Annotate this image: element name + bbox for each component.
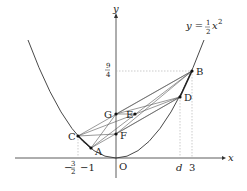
- segments: [78, 71, 192, 148]
- tick-d: d: [176, 162, 182, 173]
- x-axis-label: x: [228, 152, 234, 163]
- y-axis-label: y: [112, 3, 119, 14]
- point-C: [76, 134, 79, 137]
- label-E: E: [126, 109, 133, 120]
- label-A: A: [94, 146, 103, 157]
- point-E: [133, 112, 136, 115]
- tick-neg-3-2-den: 2: [71, 168, 75, 176]
- parabola-diagram: A B C D E F G x y O − 3 2 −1 d 3 9 4 y =…: [0, 0, 247, 191]
- curve-label-den: 2: [206, 28, 210, 36]
- tick-neg-1: −1: [80, 162, 95, 173]
- point-A: [89, 146, 92, 149]
- label-F: F: [120, 130, 127, 141]
- label-D: D: [184, 92, 192, 103]
- label-C: C: [68, 131, 76, 142]
- point-G: [114, 112, 117, 115]
- curve-label-lhs: y =: [185, 20, 203, 31]
- tick-9-4-num: 9: [106, 62, 110, 70]
- tick-3: 3: [189, 162, 195, 173]
- x-axis-arrow-icon: [222, 156, 226, 160]
- point-B: [190, 69, 193, 72]
- curve-label-num: 1: [206, 19, 210, 27]
- label-B: B: [196, 66, 203, 77]
- segment-CA: [78, 136, 91, 148]
- label-G: G: [104, 109, 112, 120]
- point-F: [114, 132, 117, 135]
- diagram-canvas: A B C D E F G x y O − 3 2 −1 d 3 9 4 y =…: [0, 0, 247, 191]
- origin-label: O: [119, 161, 127, 172]
- point-D: [178, 95, 181, 98]
- point-markers: [76, 69, 193, 149]
- curve-label-exp: 2: [218, 18, 222, 26]
- tick-neg-3-2-num: 3: [71, 160, 75, 168]
- tick-9-4-den: 4: [106, 71, 111, 79]
